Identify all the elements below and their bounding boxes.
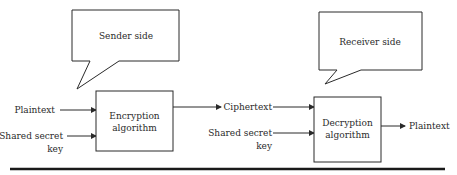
decryption-box-line1: Decryption [322, 118, 373, 128]
decryption-box-line2: algorithm [325, 130, 370, 140]
receiver-key-label-line2: key [256, 141, 273, 151]
encryption-algorithm-box: Encryption algorithm [96, 91, 173, 151]
ciphertext-label: Ciphertext [223, 102, 272, 112]
sender-key-label-line1: Shared secret [0, 131, 63, 141]
encryption-box-line2: algorithm [112, 123, 157, 133]
receiver-callout: Receiver side [319, 12, 422, 84]
encryption-diagram: Sender side Receiver side Plaintext Shar… [0, 0, 457, 175]
sender-callout: Sender side [72, 10, 179, 89]
receiver-plaintext-label: Plaintext [409, 121, 450, 131]
receiver-key-label-line1: Shared secret [208, 128, 272, 138]
sender-callout-label: Sender side [99, 31, 153, 41]
sender-key-label-line2: key [47, 144, 64, 154]
decryption-algorithm-box: Decryption algorithm [314, 97, 381, 162]
sender-plaintext-label: Plaintext [14, 105, 55, 115]
receiver-callout-label: Receiver side [339, 37, 401, 47]
encryption-box-line1: Encryption [109, 111, 159, 121]
